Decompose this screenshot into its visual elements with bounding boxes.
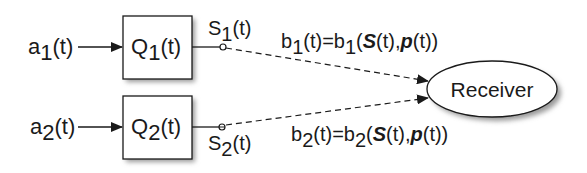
- rate-b1-label: b1(t)=b1(S(t),p(t)): [281, 30, 438, 58]
- rate-b2-label: b2(t)=b2(S(t),p(t)): [291, 123, 448, 151]
- queue-q2-box: Q2(t): [123, 96, 195, 162]
- svg-text:a1(t): a1(t): [28, 34, 73, 65]
- dashed-link-s1-receiver: [226, 48, 428, 81]
- state-s2-label: S2(t): [208, 132, 251, 160]
- state-s1-label: S1(t): [208, 17, 251, 45]
- receiver-label: Receiver: [451, 78, 534, 101]
- dashed-link-s2-receiver: [226, 98, 428, 125]
- input-a2: a2(t): [30, 114, 75, 145]
- receiver-node: Receiver: [427, 61, 561, 121]
- input-a1: a1(t): [28, 34, 73, 65]
- svg-text:a2(t): a2(t): [30, 114, 75, 145]
- queue-receiver-diagram: a1(t) Q1(t) S1(t) b1(t)=b1(S(t),p(t)) a2…: [0, 0, 587, 173]
- queue-q1-box: Q1(t): [123, 16, 195, 82]
